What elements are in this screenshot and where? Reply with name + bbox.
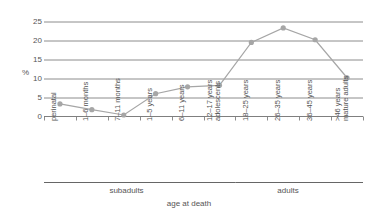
x-tick-label-mature-adults: mature adults [342,76,350,121]
data-point-1 [89,107,94,112]
x-tick-label-adolescents: adolescents [214,81,222,121]
x-axis-ticks [45,117,364,121]
x-tick-label-36-45-years: 36–45 years [306,80,314,121]
x-tick-label-18-25-years: 18–25 years [242,80,250,121]
data-point-0 [57,101,62,106]
x-axis-title: age at death [0,199,378,208]
x-tick-label-26-35-years: 26–35 years [274,80,282,121]
x-tick-label-7-11-months: 7–11 months [114,78,122,121]
x-tick-label-1-6-months: 1–6 months [82,82,90,121]
group-label-subadults: subadults [44,186,209,195]
data-point-8 [313,37,318,42]
data-point-7 [281,25,286,30]
x-tick-label-1-5-years: 1–5 years [146,88,154,121]
age-at-death-line-chart: % 25 20 15 10 5 0 perinatal 1–6 months 7… [0,0,378,218]
x-tick-label-perinatal: perinatal [50,92,58,121]
group-label-adults: adults [212,186,364,195]
x-tick-label-6-11-years: 6–11 years [178,84,186,121]
data-point-6 [249,40,254,45]
